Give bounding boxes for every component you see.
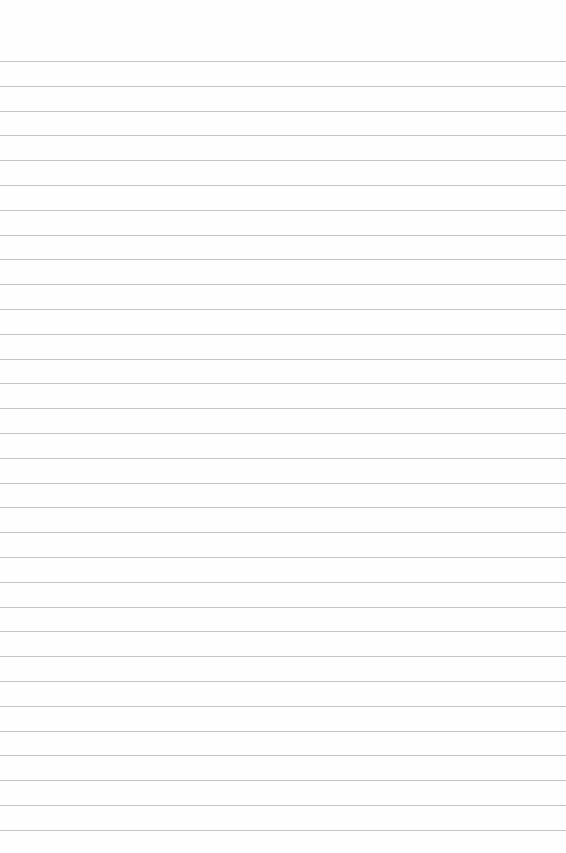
ruled-line bbox=[0, 383, 566, 384]
ruled-line bbox=[0, 458, 566, 459]
ruled-line bbox=[0, 408, 566, 409]
ruled-line bbox=[0, 433, 566, 434]
ruled-line bbox=[0, 334, 566, 335]
ruled-line bbox=[0, 805, 566, 806]
ruled-line bbox=[0, 582, 566, 583]
ruled-line bbox=[0, 631, 566, 632]
ruled-line bbox=[0, 507, 566, 508]
ruled-line bbox=[0, 259, 566, 260]
ruled-line bbox=[0, 235, 566, 236]
ruled-line bbox=[0, 532, 566, 533]
ruled-line bbox=[0, 607, 566, 608]
ruled-line bbox=[0, 135, 566, 136]
ruled-line bbox=[0, 111, 566, 112]
ruled-line bbox=[0, 61, 566, 62]
ruled-line bbox=[0, 557, 566, 558]
ruled-line bbox=[0, 86, 566, 87]
ruled-line bbox=[0, 780, 566, 781]
lined-paper bbox=[0, 0, 566, 853]
ruled-line bbox=[0, 483, 566, 484]
ruled-line bbox=[0, 359, 566, 360]
ruled-line bbox=[0, 706, 566, 707]
ruled-line bbox=[0, 656, 566, 657]
ruled-line bbox=[0, 731, 566, 732]
ruled-line bbox=[0, 309, 566, 310]
ruled-line bbox=[0, 755, 566, 756]
ruled-line bbox=[0, 284, 566, 285]
ruled-line bbox=[0, 830, 566, 831]
ruled-line bbox=[0, 185, 566, 186]
ruled-line bbox=[0, 160, 566, 161]
ruled-line bbox=[0, 210, 566, 211]
ruled-line bbox=[0, 681, 566, 682]
